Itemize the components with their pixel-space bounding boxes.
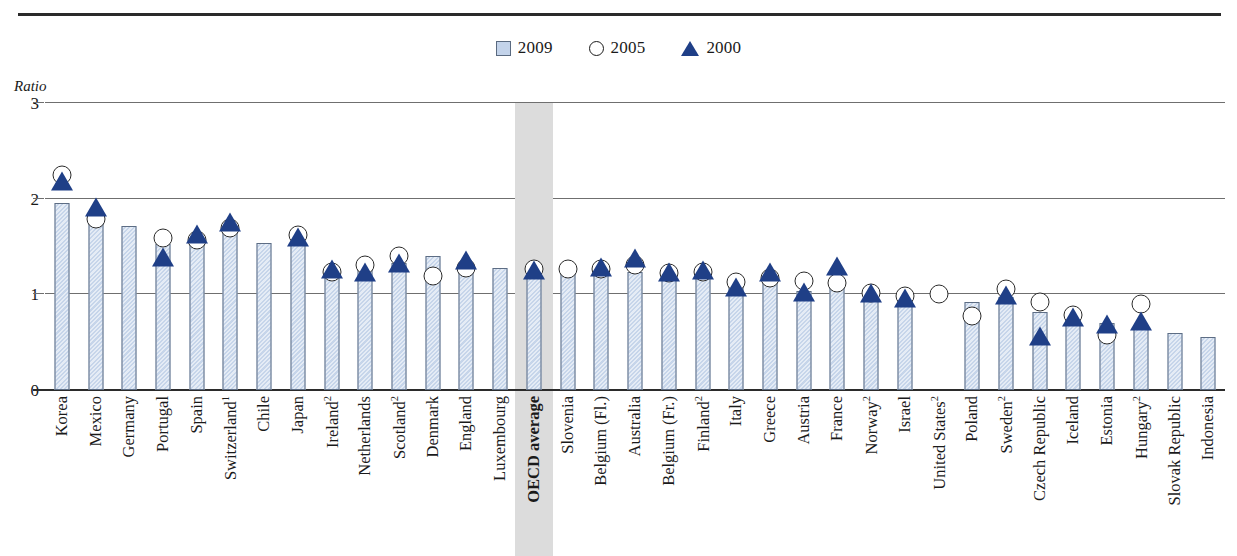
bar-2009[interactable]	[560, 270, 575, 390]
bar-2009[interactable]	[729, 285, 744, 390]
bar-column[interactable]	[686, 103, 720, 390]
bar-column[interactable]	[79, 103, 113, 390]
marker-2000[interactable]	[793, 283, 815, 302]
bar-2009[interactable]	[762, 277, 777, 390]
bar-2009[interactable]	[864, 294, 879, 390]
bar-2009[interactable]	[1066, 316, 1081, 390]
marker-2000[interactable]	[85, 198, 107, 217]
bar-2009[interactable]	[223, 232, 238, 390]
bar-column[interactable]	[1158, 103, 1192, 390]
bar-2009[interactable]	[324, 269, 339, 390]
marker-2000[interactable]	[725, 277, 747, 296]
bar-2009[interactable]	[358, 268, 373, 390]
marker-2000[interactable]	[658, 263, 680, 282]
marker-2000[interactable]	[219, 212, 241, 231]
marker-2000[interactable]	[388, 253, 410, 272]
marker-2000[interactable]	[995, 286, 1017, 305]
bar-column[interactable]	[821, 103, 855, 390]
legend-item-2009[interactable]: 2009	[496, 38, 553, 58]
bar-column[interactable]	[315, 103, 349, 390]
bar-column[interactable]	[753, 103, 787, 390]
bar-column[interactable]	[146, 103, 180, 390]
bar-column[interactable]	[382, 103, 416, 390]
marker-2005[interactable]	[828, 273, 847, 292]
bar-2009[interactable]	[1201, 337, 1216, 390]
bar-column[interactable]	[585, 103, 619, 390]
bar-column[interactable]	[517, 103, 551, 390]
marker-2000[interactable]	[590, 257, 612, 276]
bar-column[interactable]	[922, 103, 956, 390]
bar-2009[interactable]	[122, 226, 137, 390]
bar-column[interactable]	[45, 103, 79, 390]
marker-2005[interactable]	[929, 285, 948, 304]
marker-2000[interactable]	[894, 289, 916, 308]
marker-2005[interactable]	[963, 307, 982, 326]
bar-2009[interactable]	[830, 284, 845, 390]
marker-2000[interactable]	[759, 263, 781, 282]
marker-2005[interactable]	[558, 259, 577, 278]
marker-2000[interactable]	[1096, 315, 1118, 334]
bar-2009[interactable]	[290, 245, 305, 390]
bar-2009[interactable]	[257, 243, 272, 390]
bar-column[interactable]	[281, 103, 315, 390]
bar-column[interactable]	[787, 103, 821, 390]
bar-2009[interactable]	[526, 269, 541, 390]
legend-item-2005[interactable]: 2005	[589, 38, 646, 58]
bar-column[interactable]	[180, 103, 214, 390]
bar-2009[interactable]	[998, 297, 1013, 390]
marker-2000[interactable]	[624, 248, 646, 267]
marker-2000[interactable]	[523, 261, 545, 280]
marker-2005[interactable]	[154, 228, 173, 247]
bar-2009[interactable]	[695, 274, 710, 390]
bar-2009[interactable]	[628, 272, 643, 390]
bar-2009[interactable]	[392, 263, 407, 390]
bar-column[interactable]	[112, 103, 146, 390]
bar-column[interactable]	[854, 103, 888, 390]
bar-2009[interactable]	[189, 241, 204, 390]
bar-column[interactable]	[1191, 103, 1225, 390]
marker-2000[interactable]	[860, 284, 882, 303]
bar-column[interactable]	[618, 103, 652, 390]
bar-column[interactable]	[1057, 103, 1091, 390]
marker-2000[interactable]	[1062, 308, 1084, 327]
marker-2000[interactable]	[826, 256, 848, 275]
marker-2000[interactable]	[1029, 327, 1051, 346]
bar-column[interactable]	[450, 103, 484, 390]
bar-column[interactable]	[955, 103, 989, 390]
bar-column[interactable]	[989, 103, 1023, 390]
bar-column[interactable]	[719, 103, 753, 390]
legend-item-2000[interactable]: 2000	[681, 38, 741, 58]
bar-column[interactable]	[652, 103, 686, 390]
bar-2009[interactable]	[897, 297, 912, 390]
bar-2009[interactable]	[594, 272, 609, 390]
bar-column[interactable]	[1090, 103, 1124, 390]
bar-column[interactable]	[1023, 103, 1057, 390]
bar-2009[interactable]	[88, 214, 103, 390]
marker-2005[interactable]	[1030, 293, 1049, 312]
bar-2009[interactable]	[459, 266, 474, 390]
marker-2000[interactable]	[321, 260, 343, 279]
marker-2000[interactable]	[1130, 312, 1152, 331]
marker-2005[interactable]	[423, 267, 442, 286]
bar-2009[interactable]	[1133, 325, 1148, 390]
marker-2000[interactable]	[287, 227, 309, 246]
marker-2000[interactable]	[51, 172, 73, 191]
bar-column[interactable]	[214, 103, 248, 390]
bar-2009[interactable]	[493, 268, 508, 390]
marker-2000[interactable]	[455, 250, 477, 269]
bar-column[interactable]	[1124, 103, 1158, 390]
marker-2005[interactable]	[1131, 294, 1150, 313]
bar-2009[interactable]	[1032, 312, 1047, 390]
bar-2009[interactable]	[661, 274, 676, 390]
bar-column[interactable]	[416, 103, 450, 390]
bar-2009[interactable]	[1167, 333, 1182, 390]
bar-column[interactable]	[348, 103, 382, 390]
bar-column[interactable]	[551, 103, 585, 390]
marker-2000[interactable]	[186, 225, 208, 244]
bar-2009[interactable]	[796, 291, 811, 390]
bar-column[interactable]	[888, 103, 922, 390]
marker-2000[interactable]	[354, 263, 376, 282]
bar-column[interactable]	[483, 103, 517, 390]
marker-2000[interactable]	[692, 261, 714, 280]
bar-2009[interactable]	[54, 203, 69, 391]
